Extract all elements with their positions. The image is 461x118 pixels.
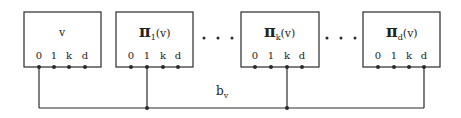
port-label-0: 0	[252, 50, 258, 61]
pi-symbol: π	[386, 22, 398, 41]
pi-symbol: π	[264, 22, 276, 41]
pi-argument: (v)	[403, 27, 418, 40]
box-pi-1-title: π1(v)	[139, 22, 171, 42]
port-label-k: k	[160, 50, 166, 61]
diagram-canvas: v π1(v) πk(v) πd(v) 0 1 k d 0 1 k d 0 1 …	[0, 0, 461, 118]
port-label-d: d	[82, 50, 88, 61]
bus-label-main: b	[216, 84, 224, 98]
port-dots	[37, 65, 426, 110]
port-label-1: 1	[144, 50, 150, 61]
pi-argument: (v)	[281, 27, 296, 40]
port-label-1: 1	[268, 50, 274, 61]
port-label-d: d	[175, 50, 181, 61]
port-label-0: 0	[375, 50, 381, 61]
bus-label: bv	[216, 84, 228, 100]
port-label-1: 1	[51, 50, 57, 61]
box-pi-d-title: πd(v)	[386, 22, 418, 42]
port-label-d: d	[421, 50, 427, 61]
port-label-k: k	[406, 50, 412, 61]
port-label-k: k	[284, 50, 290, 61]
pi-argument: (v)	[156, 27, 171, 40]
box-v-title: v	[59, 26, 65, 39]
pi-symbol: π	[139, 22, 151, 41]
port-label-1: 1	[391, 50, 397, 61]
port-label-k: k	[66, 50, 72, 61]
bus-label-sub: v	[224, 91, 229, 100]
port-label-d: d	[299, 50, 305, 61]
port-label-0: 0	[36, 50, 42, 61]
box-pi-k-title: πk(v)	[264, 22, 295, 42]
port-label-0: 0	[128, 50, 134, 61]
